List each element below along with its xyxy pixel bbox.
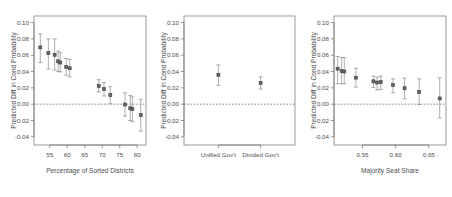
data-point-group — [139, 99, 143, 131]
y-tick-label: 0.06 — [17, 51, 30, 58]
y-tick-label: 0.04 — [317, 68, 330, 75]
data-point-marker — [354, 76, 357, 79]
x-tick-label: 0.65 — [423, 151, 436, 158]
y-tick-label: 0.10 — [317, 19, 330, 26]
y-axis-title: Predicted Diff in Cond Probability — [10, 31, 18, 128]
y-tick-label: 0.10 — [17, 19, 30, 26]
plot-frame — [34, 16, 146, 145]
panel-majority-seat-share: -0.04-0.020.000.020.040.060.080.100.550.… — [300, 0, 452, 197]
data-point-group — [216, 65, 220, 85]
x-tick-label: 0.55 — [356, 151, 369, 158]
y-axis-title: Predicted Diff in Cond Probability — [310, 31, 318, 128]
figure-three-panel-coefficient-plot: -0.04-0.020.000.020.040.060.080.10556065… — [0, 0, 452, 197]
data-point-marker — [379, 81, 382, 84]
data-point-marker — [103, 88, 106, 91]
plot-frame — [334, 16, 446, 145]
x-axis-title: Percentage of Sorted Districts — [46, 167, 134, 175]
plot-area-panel-3: -0.04-0.020.000.020.040.060.080.100.550.… — [300, 0, 452, 197]
x-tick-label: 55 — [46, 151, 53, 158]
data-point-group — [336, 56, 340, 83]
plot-area-panel-1: -0.04-0.020.000.020.040.060.080.10556065… — [0, 0, 152, 197]
data-point-group — [102, 83, 106, 96]
data-point-group — [375, 77, 379, 90]
y-tick-label: 0.06 — [317, 51, 330, 58]
x-tick-label: Divided Gov't — [242, 151, 279, 158]
data-point-marker — [47, 52, 50, 55]
x-axis-title: Majority Seat Share — [361, 167, 419, 175]
data-point-marker — [124, 103, 127, 106]
data-point-group — [402, 78, 406, 99]
data-point-marker — [39, 46, 42, 49]
data-point-group — [68, 59, 72, 77]
data-point-group — [417, 79, 421, 105]
x-tick-label: 60 — [64, 151, 71, 158]
x-tick-label: 80 — [134, 151, 141, 158]
data-point-group — [438, 78, 442, 118]
data-point-marker — [97, 84, 100, 87]
data-point-group — [38, 34, 42, 63]
y-tick-label: 0.08 — [317, 35, 330, 42]
x-tick-label: 70 — [99, 151, 106, 158]
x-tick-label: 75 — [116, 151, 123, 158]
data-point-group — [53, 39, 57, 70]
y-tick-label: 0.08 — [167, 35, 180, 42]
y-tick-label: -0.02 — [165, 117, 180, 124]
plot-frame — [184, 16, 295, 145]
data-point-marker — [336, 67, 339, 70]
data-point-marker — [372, 80, 375, 83]
y-tick-label: 0.02 — [17, 84, 30, 91]
data-point-group — [46, 39, 50, 69]
data-point-group — [371, 76, 375, 87]
x-tick-label: 65 — [81, 151, 88, 158]
data-point-marker — [259, 81, 262, 84]
data-point-marker — [217, 73, 220, 76]
y-tick-label: 0.10 — [167, 19, 180, 26]
panel-government-type: -0.04-0.020.000.020.040.060.080.10Unifie… — [152, 0, 300, 197]
y-tick-label: 0.00 — [317, 100, 330, 107]
data-point-marker — [131, 108, 134, 111]
y-tick-label: 0.02 — [317, 84, 330, 91]
y-tick-label: 0.00 — [167, 100, 180, 107]
data-point-group — [130, 97, 134, 122]
data-point-group — [379, 76, 383, 89]
data-point-group — [108, 87, 112, 104]
data-point-marker — [376, 81, 379, 84]
x-tick-label: 0.60 — [390, 151, 403, 158]
data-point-group — [97, 80, 101, 92]
data-point-group — [391, 79, 395, 93]
data-point-marker — [438, 97, 441, 100]
data-point-group — [123, 93, 127, 116]
y-tick-label: -0.02 — [15, 117, 30, 124]
data-point-marker — [418, 90, 421, 93]
y-tick-label: 0.02 — [167, 84, 180, 91]
y-tick-label: -0.04 — [15, 133, 30, 140]
y-tick-label: -0.02 — [315, 117, 330, 124]
data-point-marker — [59, 61, 62, 64]
data-point-group — [354, 68, 358, 87]
y-tick-label: -0.04 — [165, 133, 180, 140]
y-tick-label: 0.00 — [17, 100, 30, 107]
plot-area-panel-2: -0.04-0.020.000.020.040.060.080.10Unifie… — [152, 0, 300, 197]
data-point-group — [258, 77, 262, 89]
data-point-group — [58, 53, 62, 72]
data-point-marker — [109, 94, 112, 97]
y-tick-label: 0.04 — [167, 68, 180, 75]
y-tick-label: 0.08 — [17, 35, 30, 42]
y-tick-label: -0.04 — [315, 133, 330, 140]
data-point-marker — [391, 83, 394, 86]
panel-sorted-districts: -0.04-0.020.000.020.040.060.080.10556065… — [0, 0, 152, 197]
y-tick-label: 0.06 — [167, 51, 180, 58]
data-point-group — [342, 58, 346, 84]
y-tick-label: 0.04 — [17, 68, 30, 75]
data-point-marker — [53, 53, 56, 56]
data-point-marker — [343, 70, 346, 73]
data-point-marker — [65, 66, 68, 69]
data-point-marker — [68, 67, 71, 70]
data-point-marker — [139, 114, 142, 117]
data-point-marker — [403, 87, 406, 90]
x-tick-label: Unified Gov't — [201, 151, 237, 158]
y-axis-title: Predicted Diff in Cond Probability — [160, 31, 168, 128]
data-point-group — [64, 58, 68, 75]
